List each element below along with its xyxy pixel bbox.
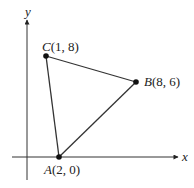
side-ab [59, 82, 136, 157]
point-b-label: B(8, 6) [144, 74, 180, 89]
triangle-diagram: y x C(1, 8) B(8, 6) A(2, 0) [0, 0, 194, 188]
point-b-name: B [144, 74, 152, 89]
point-c-name: C [42, 39, 51, 54]
side-ca [46, 56, 59, 157]
point-c-label: C(1, 8) [42, 39, 79, 54]
y-axis-label: y [23, 4, 31, 19]
point-b [133, 79, 139, 85]
point-a-name: A [43, 162, 52, 177]
point-b-coords: (8, 6) [152, 74, 180, 89]
point-c [43, 53, 49, 59]
point-a-label: A(2, 0) [43, 162, 80, 177]
triangle-abc [46, 56, 136, 157]
point-c-coords: (1, 8) [51, 39, 79, 54]
point-a-coords: (2, 0) [52, 162, 80, 177]
point-a [56, 154, 62, 160]
x-axis-label: x [181, 149, 188, 164]
side-cb [46, 56, 136, 82]
